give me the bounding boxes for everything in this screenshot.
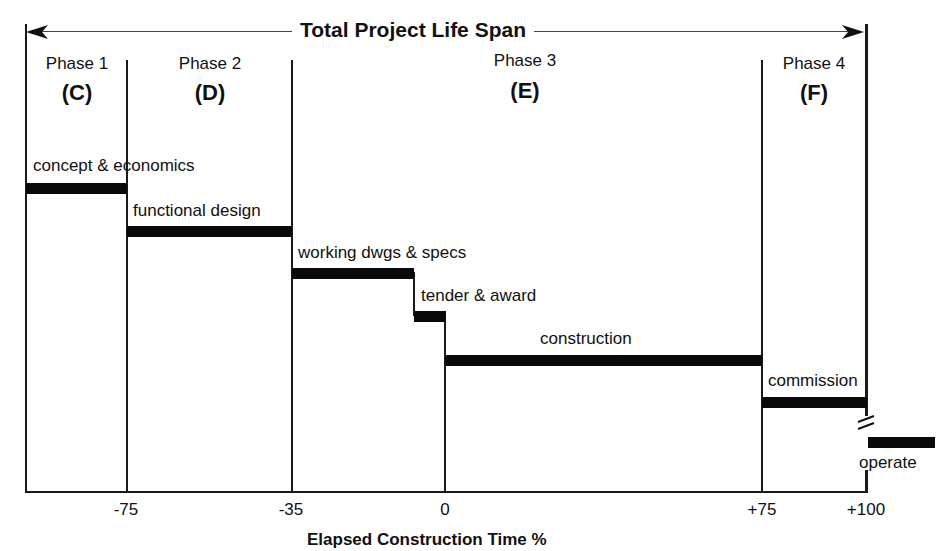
axis-break-icon — [856, 414, 878, 434]
x-tick-minus35: -35 — [279, 500, 304, 520]
phase-3-code: (E) — [465, 78, 585, 104]
phase-2-label: Phase 2 — [150, 54, 270, 74]
task-bar-construction — [445, 355, 762, 366]
x-axis-line — [25, 491, 868, 493]
task-bar-concept — [26, 183, 127, 194]
phase-divider-minus75 — [126, 60, 128, 493]
x-tick-plus100: +100 — [847, 500, 885, 520]
phase-divider-plus75 — [761, 60, 763, 493]
task-bar-working-dwgs — [292, 268, 414, 279]
arrow-right-icon — [842, 23, 864, 41]
x-tick-zero: 0 — [440, 500, 449, 520]
gridline-zero — [444, 321, 446, 493]
task-label-commission: commission — [768, 371, 858, 391]
x-tick-plus75: +75 — [748, 500, 777, 520]
x-axis-label: Elapsed Construction Time % — [307, 530, 547, 550]
phase-1-code: (C) — [30, 80, 124, 106]
arrow-left-icon — [26, 23, 48, 41]
phase-4-code: (F) — [766, 80, 862, 106]
phase-2-code: (D) — [150, 80, 270, 106]
task-bar-tender — [414, 311, 446, 322]
task-bar-operate — [868, 437, 935, 448]
task-label-tender: tender & award — [421, 286, 536, 306]
task-bar-functional-design — [127, 226, 292, 237]
right-boundary-plus100-bottom — [865, 470, 868, 493]
phase-4-label: Phase 4 — [766, 54, 862, 74]
task-label-operate: operate — [859, 453, 917, 473]
x-tick-minus75: -75 — [114, 500, 139, 520]
chart-title: Total Project Life Span — [292, 18, 534, 42]
left-axis-line — [25, 24, 27, 493]
task-bar-commission — [762, 397, 867, 408]
task-label-working-dwgs: working dwgs & specs — [298, 243, 466, 263]
right-boundary-plus100-top — [865, 24, 868, 416]
task-label-functional-design: functional design — [133, 201, 261, 221]
task-label-concept: concept & economics — [33, 156, 195, 176]
phase-1-label: Phase 1 — [30, 54, 124, 74]
phase-3-label: Phase 3 — [465, 51, 585, 71]
task-label-construction: construction — [540, 329, 632, 349]
